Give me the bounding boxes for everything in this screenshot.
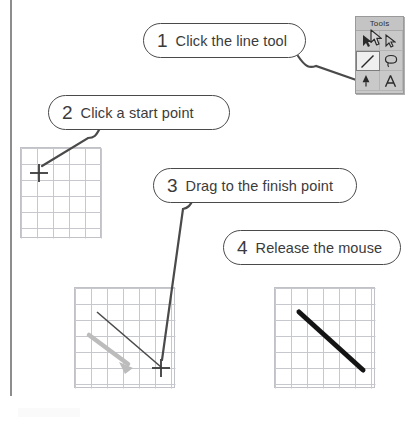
mouse-cursor-icon (370, 29, 384, 47)
line-tool-icon[interactable] (356, 51, 380, 71)
callout-2-leader-line (38, 126, 108, 170)
callout-step-3: 3 Drag to the finish point (153, 168, 357, 203)
callout-step-1-number: 1 (144, 30, 176, 52)
figure-page: 1 Click the line tool 2 Click a start po… (0, 0, 417, 430)
canvas-finished-line-artwork (275, 288, 376, 389)
callout-step-2-number: 2 (49, 102, 81, 124)
callout-step-2-text: Click a start point (81, 105, 209, 121)
callout-step-1: 1 Click the line tool (143, 23, 306, 58)
callout-step-3-number: 3 (154, 175, 186, 197)
drag-direction-arrow (89, 335, 133, 374)
callout-step-2: 2 Click a start point (48, 95, 230, 130)
tools-palette[interactable]: Tools (355, 16, 404, 94)
callout-step-4-number: 4 (224, 237, 256, 259)
callout-3-leader-line (150, 196, 210, 364)
text-tool-icon[interactable] (380, 71, 404, 91)
page-scan-artifact (18, 408, 80, 417)
callout-step-3-text: Drag to the finish point (186, 178, 349, 194)
lasso-tool-icon[interactable] (380, 51, 404, 71)
paint-bucket-tool-icon[interactable] (356, 71, 380, 91)
canvas-finished-line[interactable] (274, 287, 375, 388)
callout-step-4-text: Release the mouse (256, 240, 398, 256)
callout-step-4: 4 Release the mouse (223, 230, 401, 265)
callout-step-1-text: Click the line tool (176, 33, 303, 49)
page-margin-rule (10, 0, 12, 396)
